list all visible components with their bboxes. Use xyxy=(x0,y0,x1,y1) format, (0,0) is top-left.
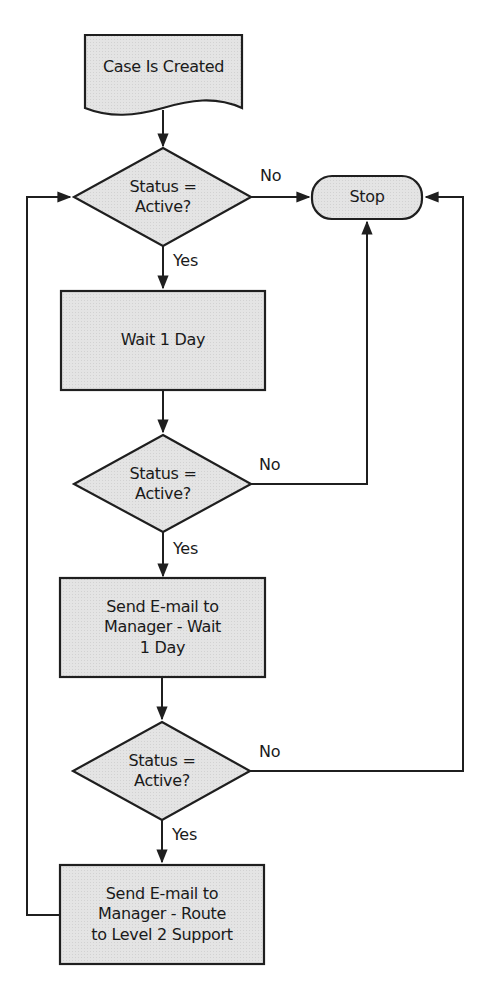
stop-label: Stop xyxy=(312,176,422,219)
edge-label-decision2-no: No xyxy=(259,455,280,474)
decision3-label: Status = Active? xyxy=(99,744,225,798)
edge-label-decision1-yes: Yes xyxy=(173,251,198,270)
decision2-label: Status = Active? xyxy=(100,457,226,511)
edge-label-decision2-yes: Yes xyxy=(173,539,198,558)
email-route-label: Send E-mail to Manager - Route to Level … xyxy=(60,865,264,964)
flowchart-canvas xyxy=(0,0,491,984)
edge-label-decision3-yes: Yes xyxy=(172,825,197,844)
edge-label-decision3-no: No xyxy=(259,742,280,761)
edge-decision2-no-to-stop xyxy=(251,222,367,484)
start-label: Case Is Created xyxy=(85,45,242,89)
edge-label-decision1-no: No xyxy=(260,166,281,185)
wait1-label: Wait 1 Day xyxy=(61,291,265,390)
decision1-label: Status = Active? xyxy=(100,170,226,224)
email-wait-label: Send E-mail to Manager - Wait 1 Day xyxy=(60,578,265,677)
